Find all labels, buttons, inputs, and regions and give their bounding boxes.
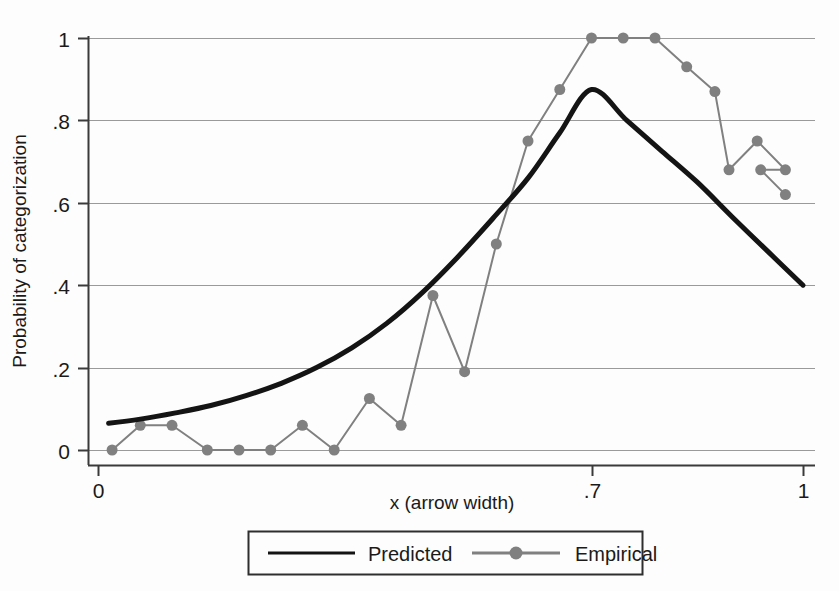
probability-of-categorization-chart: 0.2.4.6.81 0.71 Probability of categoriz… — [0, 0, 839, 591]
empirical-data-point — [586, 33, 597, 44]
y-tick-label: .8 — [52, 110, 70, 133]
empirical-data-point — [554, 84, 565, 95]
empirical-data-point — [780, 164, 791, 175]
empirical-data-point — [681, 61, 692, 72]
empirical-data-point — [202, 445, 213, 456]
x-tick-label: 1 — [798, 479, 810, 502]
chart-figure: 0.2.4.6.81 0.71 Probability of categoriz… — [0, 0, 839, 591]
empirical-data-point — [724, 164, 735, 175]
empirical-data-point — [618, 33, 629, 44]
empirical-data-point — [107, 445, 118, 456]
empirical-data-point — [650, 33, 661, 44]
x-tick-label: .7 — [584, 479, 602, 502]
y-tick-label: 1 — [58, 28, 70, 51]
chart-legend: Predicted Empirical — [249, 532, 658, 575]
empirical-data-point — [297, 420, 308, 431]
y-tick-label: .6 — [52, 193, 70, 216]
empirical-data-point — [427, 290, 438, 301]
x-tick-label: 0 — [93, 479, 105, 502]
x-axis-title: x (arrow width) — [390, 492, 515, 513]
y-tick-label: 0 — [58, 440, 70, 463]
empirical-data-point — [523, 136, 534, 147]
empirical-data-point — [459, 366, 470, 377]
empirical-data-point — [265, 445, 276, 456]
y-axis-title: Probability of categorization — [9, 134, 30, 367]
empirical-data-point — [234, 445, 245, 456]
empirical-data-point — [167, 420, 178, 431]
legend-marker-empirical — [510, 547, 523, 560]
empirical-data-point — [491, 239, 502, 250]
legend-label-empirical: Empirical — [575, 543, 657, 565]
y-tick-label: .2 — [52, 358, 70, 381]
empirical-data-point — [780, 189, 791, 200]
legend-label-predicted: Predicted — [368, 543, 453, 565]
empirical-data-point — [329, 445, 340, 456]
y-tick-label: .4 — [52, 275, 70, 298]
empirical-data-point — [755, 164, 766, 175]
empirical-data-point — [364, 393, 375, 404]
empirical-data-point — [752, 136, 763, 147]
empirical-data-point — [709, 86, 720, 97]
empirical-data-point — [396, 420, 407, 431]
